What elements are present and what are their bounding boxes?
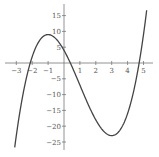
y-tick-label: 15 (52, 12, 61, 20)
cubic-function-plot: −3−2−112345 15105−5−10−15−20−25 (0, 0, 159, 157)
y-ticks: 15105−5−10−15−20−25 (46, 12, 66, 146)
y-tick-label: −20 (46, 123, 61, 131)
x-tick-label: 3 (109, 67, 113, 75)
y-axis: 15105−5−10−15−20−25 (46, 4, 66, 150)
function-curve (15, 10, 147, 147)
x-tick-label: −3 (11, 67, 21, 75)
x-tick-label: −1 (43, 67, 53, 75)
y-tick-label: −10 (46, 91, 61, 99)
x-tick-label: 5 (141, 67, 145, 75)
y-tick-label: −15 (46, 107, 61, 115)
y-tick-label: −5 (51, 75, 61, 83)
y-tick-label: 10 (52, 28, 61, 36)
y-tick-label: −25 (46, 139, 61, 147)
x-tick-label: 4 (125, 67, 130, 75)
x-tick-label: 1 (78, 67, 82, 75)
x-tick-label: 2 (94, 67, 98, 75)
